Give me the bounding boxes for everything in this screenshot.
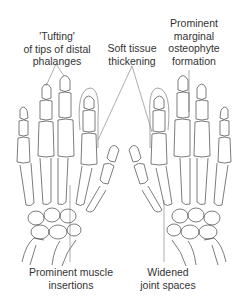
joint-label: Widened joint spaces (136, 266, 200, 291)
soft-tissue-leader (98, 66, 152, 140)
tufting-label: 'Tufting' of tips of distal phalanges (22, 30, 92, 68)
right-hand-drawing (129, 76, 231, 267)
osteophyte-label: Prominent marginal osteophyte formation (162, 17, 226, 67)
diagram-canvas: 'Tufting' of tips of distal phalanges So… (0, 0, 248, 306)
soft-tissue-label: Soft tissue thickening (102, 42, 162, 67)
muscle-label: Prominent muscle insertions (26, 266, 116, 291)
left-hand-drawing (17, 76, 119, 267)
